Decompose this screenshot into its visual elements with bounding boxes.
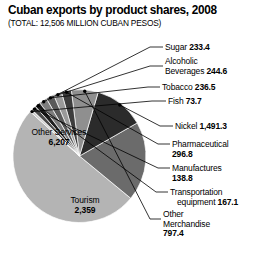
slice-label-tourism: Tourism 2,359 <box>57 196 113 215</box>
callout-nickel: Nickel 1,491.3 <box>175 122 227 132</box>
callout-alcoholic-value: 244.6 <box>207 66 228 76</box>
callout-other-merchandise-name: Other <box>163 209 184 219</box>
callout-alcoholic-name: Alcoholic <box>165 56 198 66</box>
callout-sugar-value: 233.4 <box>189 42 210 52</box>
callout-sugar-name: Sugar <box>165 42 187 52</box>
leader-dot-alcoholic-beverages <box>56 93 59 96</box>
leader-dot-transportation-equipment <box>37 104 40 107</box>
callout-alcoholic-name2: Beverages <box>165 66 204 76</box>
callout-transportation-name: Transportation <box>170 187 222 197</box>
callout-manufactures-name: Manufactures <box>172 163 222 173</box>
callout-pharmaceutical-name: Pharmaceutical <box>172 139 228 149</box>
callout-manufactures-value: 138.8 <box>172 173 193 183</box>
callout-alcoholic-beverages: Alcoholic Beverages 244.6 <box>165 57 251 76</box>
callout-transportation-equipment: Transportation equipment 167.1 <box>170 188 255 207</box>
callout-other-merchandise: Other Merchandise 797.4 <box>163 210 210 239</box>
callout-fish-value: 73.7 <box>186 96 202 106</box>
leader-dot-other-merchandise <box>83 90 86 93</box>
callout-other-merchandise-name2: Merchandise <box>163 219 210 229</box>
slice-label-other-services: Other Services 6,207 <box>16 128 102 147</box>
callout-fish-name: Fish <box>168 96 183 106</box>
callout-tobacco-name: Tobacco <box>162 82 193 92</box>
callout-tobacco-value: 236.5 <box>195 82 216 92</box>
callout-sugar: Sugar 233.4 <box>165 43 210 53</box>
callout-nickel-name: Nickel <box>175 121 197 131</box>
pie-chart-figure: Cuban exports by product shares, 2008 (T… <box>0 0 255 254</box>
leader-dot-fish <box>30 110 33 113</box>
callout-tobacco: Tobacco 236.5 <box>162 83 215 93</box>
leader-dot-pharmaceutical <box>65 91 68 94</box>
callout-manufactures: Manufactures 138.8 <box>172 164 255 183</box>
callout-other-merchandise-value: 797.4 <box>163 228 184 238</box>
callout-transportation-name2: equipment <box>177 197 215 207</box>
callout-transportation-value: 167.1 <box>218 197 239 207</box>
leader-dot-manufactures <box>33 107 36 110</box>
slice-label-tourism-value: 2,359 <box>57 206 113 216</box>
callout-pharmaceutical: Pharmaceutical 296.8 <box>172 140 255 159</box>
leader-dot-nickel <box>118 103 121 106</box>
callout-fish: Fish 73.7 <box>168 97 202 107</box>
leader-dot-sugar <box>42 100 45 103</box>
callout-pharmaceutical-value: 296.8 <box>172 149 193 159</box>
callout-nickel-value: 1,491.3 <box>199 121 226 131</box>
slice-label-other-services-value: 6,207 <box>16 138 102 148</box>
leader-dot-tobacco <box>49 96 52 99</box>
